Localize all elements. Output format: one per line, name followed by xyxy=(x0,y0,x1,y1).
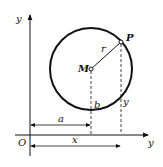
point-p xyxy=(119,40,123,44)
center-label: M xyxy=(77,63,90,74)
y-axis-label: y xyxy=(15,13,22,24)
radius-label: r xyxy=(101,43,107,54)
circle-coordinate-diagram: y y O M P r a b y x xyxy=(0,0,163,167)
point-label: P xyxy=(125,32,134,43)
coord-x-label: x xyxy=(72,134,78,145)
a-label: a xyxy=(58,113,64,124)
x-axis-label: y xyxy=(147,137,154,148)
radius-line xyxy=(91,42,121,69)
center-point xyxy=(89,67,93,71)
coord-y-label: y xyxy=(122,96,129,107)
origin-label: O xyxy=(18,137,26,148)
b-label: b xyxy=(94,99,100,110)
